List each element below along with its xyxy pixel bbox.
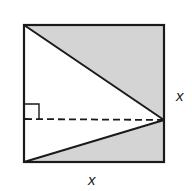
geometry-diagram: x x	[0, 0, 192, 191]
right-side-label: x	[175, 87, 184, 104]
bottom-side-label: x	[87, 171, 96, 188]
